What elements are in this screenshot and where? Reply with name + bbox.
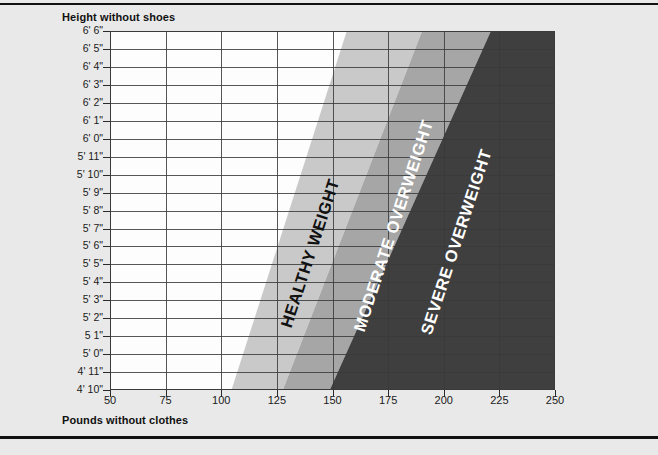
y-tick-label: 4' 11" xyxy=(55,365,103,377)
y-tick-mark xyxy=(103,121,110,122)
y-tick-label: 6' 2" xyxy=(55,96,103,108)
y-tick-label: 6' 5" xyxy=(55,42,103,54)
y-tick-mark xyxy=(103,264,110,265)
y-tick-mark xyxy=(103,390,110,391)
x-tick-mark xyxy=(277,390,278,397)
y-tick-label: 6' 1" xyxy=(55,114,103,126)
bmi-chart-figure: Height without shoes HEALTHY WEIGHTMODER… xyxy=(0,0,658,455)
x-tick-mark xyxy=(388,390,389,397)
x-tick-mark xyxy=(333,390,334,397)
y-tick-label: 6' 0" xyxy=(55,132,103,144)
y-tick-label: 5' 10" xyxy=(55,168,103,180)
y-tick-mark xyxy=(103,103,110,104)
y-tick-label: 5' 9" xyxy=(55,186,103,198)
y-tick-label: 5' 0" xyxy=(55,347,103,359)
y-tick-mark xyxy=(103,67,110,68)
y-tick-mark xyxy=(103,49,110,50)
y-tick-label: 5' 8" xyxy=(55,204,103,216)
y-tick-label: 5' 6" xyxy=(55,239,103,251)
y-tick-label: 6' 3" xyxy=(55,78,103,90)
y-tick-label: 5' 4" xyxy=(55,275,103,287)
x-tick-mark xyxy=(555,390,556,397)
y-axis-title: Height without shoes xyxy=(62,11,175,23)
y-tick-label: 5' 5" xyxy=(55,257,103,269)
y-tick-mark xyxy=(103,139,110,140)
y-tick-label: 5' 11" xyxy=(55,150,103,162)
x-axis-title: Pounds without clothes xyxy=(62,414,188,426)
top-divider-rule xyxy=(0,3,658,5)
y-tick-mark xyxy=(103,282,110,283)
y-tick-mark xyxy=(103,318,110,319)
y-tick-mark xyxy=(103,336,110,337)
y-tick-mark xyxy=(103,354,110,355)
y-tick-mark xyxy=(103,300,110,301)
y-tick-mark xyxy=(103,157,110,158)
bottom-divider-rule xyxy=(0,436,658,439)
x-tick-mark xyxy=(444,390,445,397)
y-tick-label: 6' 6" xyxy=(55,24,103,36)
y-tick-label: 5 1" xyxy=(55,329,103,341)
y-tick-mark xyxy=(103,175,110,176)
y-tick-mark xyxy=(103,229,110,230)
y-tick-label: 5' 2" xyxy=(55,311,103,323)
y-tick-mark xyxy=(103,246,110,247)
y-tick-mark xyxy=(103,85,110,86)
y-tick-label: 5' 7" xyxy=(55,222,103,234)
x-tick-mark xyxy=(499,390,500,397)
y-tick-mark xyxy=(103,193,110,194)
y-tick-mark xyxy=(103,372,110,373)
x-tick-mark xyxy=(110,390,111,397)
x-tick-mark xyxy=(221,390,222,397)
y-tick-label: 6' 4" xyxy=(55,60,103,72)
y-tick-label: 5' 3" xyxy=(55,293,103,305)
x-tick-mark xyxy=(166,390,167,397)
y-tick-mark xyxy=(103,211,110,212)
plot-area: HEALTHY WEIGHTMODERATE OVERWEIGHTSEVERE … xyxy=(110,31,555,390)
y-tick-mark xyxy=(103,31,110,32)
